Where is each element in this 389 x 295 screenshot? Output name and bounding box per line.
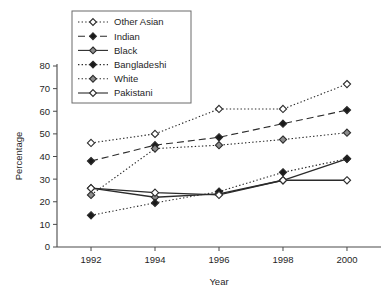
data-point-marker — [151, 130, 158, 137]
y-tick-label: 0 — [45, 241, 50, 252]
y-tick-label: 20 — [39, 196, 50, 207]
data-point-marker — [87, 185, 94, 192]
y-tick-label: 40 — [39, 151, 50, 162]
legend-label: Pakistani — [114, 87, 153, 98]
data-point-marker — [279, 177, 286, 184]
data-point-marker — [87, 157, 94, 164]
data-point-marker — [279, 120, 286, 127]
data-point-marker — [343, 129, 350, 136]
data-point-marker — [343, 155, 350, 162]
legend-label: Other Asian — [114, 16, 164, 27]
legend-label: Indian — [114, 31, 140, 42]
data-point-marker — [87, 139, 94, 146]
y-tick-label: 70 — [39, 83, 50, 94]
data-point-marker — [279, 136, 286, 143]
data-point-marker — [215, 105, 222, 112]
data-point-marker — [215, 142, 222, 149]
y-tick-label: 60 — [39, 106, 50, 117]
x-tick-label: 1996 — [208, 254, 229, 265]
x-axis-title: Year — [209, 276, 228, 287]
data-point-marker — [151, 189, 158, 196]
legend-label: White — [114, 73, 138, 84]
data-point-marker — [279, 169, 286, 176]
x-tick-label: 1992 — [80, 254, 101, 265]
y-tick-label: 30 — [39, 174, 50, 185]
data-point-marker — [87, 212, 94, 219]
data-point-marker — [279, 105, 286, 112]
data-point-marker — [343, 81, 350, 88]
legend-label: Bangladeshi — [114, 59, 166, 70]
x-tick-label: 1994 — [144, 254, 165, 265]
x-tick-label: 2000 — [336, 254, 357, 265]
data-point-marker — [151, 199, 158, 206]
y-tick-label: 80 — [39, 60, 50, 71]
chart-container: Percentage Year 01020304050607080 199219… — [0, 0, 389, 295]
y-axis-ticks: 01020304050607080 — [39, 60, 57, 252]
y-axis-title: Percentage — [13, 132, 24, 181]
data-point-marker — [343, 107, 350, 114]
data-point-marker — [215, 134, 222, 141]
legend-label: Black — [114, 45, 137, 56]
y-tick-label: 50 — [39, 128, 50, 139]
y-tick-label: 10 — [39, 219, 50, 230]
x-axis-ticks: 19921994199619982000 — [80, 247, 357, 265]
line-chart: Percentage Year 01020304050607080 199219… — [0, 0, 389, 295]
series-bangladeshi — [87, 155, 350, 219]
x-tick-label: 1998 — [272, 254, 293, 265]
series-indian — [87, 107, 350, 165]
data-point-marker — [343, 177, 350, 184]
